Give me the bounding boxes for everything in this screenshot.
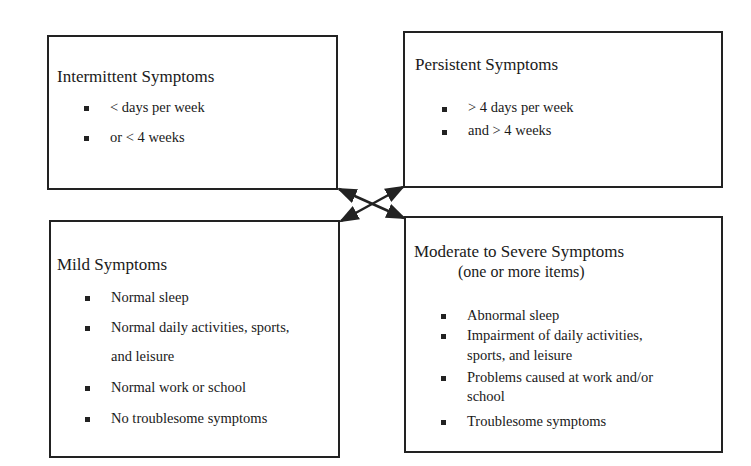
arrow-persistent-mild — [341, 187, 403, 221]
connector-arrows — [0, 0, 751, 466]
